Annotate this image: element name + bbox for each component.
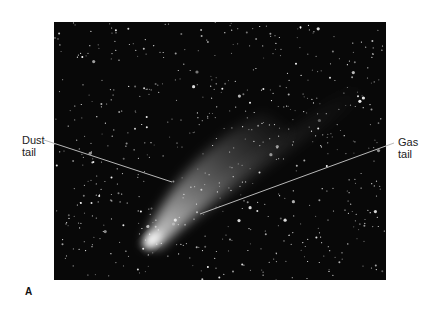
starfield-image bbox=[54, 22, 386, 280]
dust-tail-label: Dust tail bbox=[22, 134, 45, 158]
gas-tail-label: Gas tail bbox=[398, 136, 418, 160]
gas-label-line2: tail bbox=[398, 148, 418, 160]
gas-label-line1: Gas bbox=[398, 136, 418, 148]
panel-letter: A bbox=[25, 286, 32, 297]
dust-label-line2: tail bbox=[22, 146, 45, 158]
dust-label-line1: Dust bbox=[22, 134, 45, 146]
comet-photograph bbox=[54, 22, 386, 280]
